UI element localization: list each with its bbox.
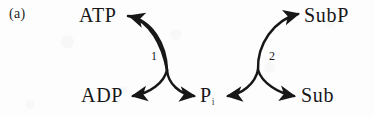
step-number-2: 2 — [269, 50, 275, 62]
arrow-waist-to-adp — [133, 70, 167, 96]
node-label-phosphate: Pi — [200, 85, 215, 107]
reaction-diagram-figure: (a) ATP SubP ADP Pi Sub 1 2 — [0, 0, 374, 116]
node-label-sub: Sub — [301, 85, 334, 105]
node-label-phosphate-subscript: i — [212, 96, 215, 107]
node-label-subp: SubP — [304, 5, 349, 25]
arrow-waist-to-pi — [228, 70, 258, 96]
arrow-waist-to-subp — [258, 14, 298, 70]
node-label-phosphate-text: P — [200, 84, 212, 106]
step-number-1: 1 — [151, 50, 157, 62]
arrow-atp-to-pi — [128, 16, 194, 96]
node-label-atp: ATP — [79, 5, 117, 25]
arrow-waist-to-sub — [258, 70, 294, 96]
node-label-adp: ADP — [81, 85, 123, 105]
